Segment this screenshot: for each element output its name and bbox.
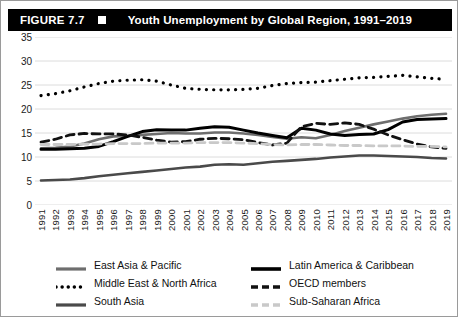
x-axis-tick-2018: 2018 <box>427 209 438 231</box>
y-axis-tick-30: 30 <box>21 56 32 67</box>
legend-swatch-icon-1 <box>251 260 281 270</box>
x-axis-tick-2009: 2009 <box>296 209 307 231</box>
y-axis-tick-10: 10 <box>21 152 32 163</box>
legend-item-5: Sub-Saharan Africa <box>251 293 380 309</box>
y-axis-tick-labels: 35302520151050 <box>8 37 32 205</box>
x-axis-tick-2000: 2000 <box>166 209 177 231</box>
y-axis-tick-5: 5 <box>26 176 32 187</box>
x-axis-tick-2012: 2012 <box>340 209 351 231</box>
chart-plot-area: 35302520151050 <box>8 37 452 212</box>
x-axis-tick-2007: 2007 <box>267 209 278 231</box>
chart-legend: East Asia & PacificMiddle East & North A… <box>8 257 452 311</box>
x-axis-tick-1994: 1994 <box>79 209 90 231</box>
x-axis-tick-2008: 2008 <box>282 209 293 231</box>
x-axis-tick-2015: 2015 <box>383 209 394 231</box>
legend-swatch-icon-2 <box>56 278 86 288</box>
x-axis-tick-1997: 1997 <box>123 209 134 231</box>
x-axis-tick-2002: 2002 <box>195 209 206 231</box>
y-axis-tick-20: 20 <box>21 104 32 115</box>
x-axis-tick-1993: 1993 <box>65 209 76 231</box>
legend-item-1: Latin America & Caribbean <box>251 257 414 273</box>
x-axis-tick-2006: 2006 <box>253 209 264 231</box>
y-axis-tick-15: 15 <box>21 128 32 139</box>
x-axis-tick-2017: 2017 <box>412 209 423 231</box>
white-square-icon <box>98 16 106 24</box>
legend-item-3: OECD members <box>251 275 366 291</box>
figure-title: Youth Unemployment by Global Region, 199… <box>128 14 412 26</box>
x-axis-tick-2013: 2013 <box>354 209 365 231</box>
chart-canvas <box>35 37 452 205</box>
legend-swatch-icon-5 <box>251 296 281 306</box>
series-line-4 <box>41 156 446 181</box>
figure-panel: FIGURE 7.7 Youth Unemployment by Global … <box>0 0 458 317</box>
legend-label-5: Sub-Saharan Africa <box>289 295 380 307</box>
legend-swatch-icon-3 <box>251 278 281 288</box>
legend-item-4: South Asia <box>56 293 144 309</box>
legend-label-1: Latin America & Caribbean <box>289 259 414 271</box>
x-axis-tick-2016: 2016 <box>398 209 409 231</box>
legend-label-3: OECD members <box>289 277 366 289</box>
legend-label-0: East Asia & Pacific <box>94 259 182 271</box>
y-axis-tick-0: 0 <box>26 200 32 211</box>
x-axis-tick-2014: 2014 <box>369 209 380 231</box>
x-axis-tick-1991: 1991 <box>36 209 47 231</box>
x-axis-tick-labels: 1991199219931994199519961997199819992000… <box>35 209 452 251</box>
legend-item-0: East Asia & Pacific <box>56 257 182 273</box>
y-axis-tick-25: 25 <box>21 80 32 91</box>
y-axis-tick-35: 35 <box>21 32 32 43</box>
legend-swatch-icon-0 <box>56 260 86 270</box>
chart-svg <box>35 37 452 205</box>
x-axis-tick-2003: 2003 <box>210 209 221 231</box>
legend-item-2: Middle East & North Africa <box>56 275 217 291</box>
figure-title-bar: FIGURE 7.7 Youth Unemployment by Global … <box>8 9 452 31</box>
x-axis-tick-2001: 2001 <box>181 209 192 231</box>
legend-label-4: South Asia <box>94 295 144 307</box>
x-axis-tick-2011: 2011 <box>325 209 336 230</box>
x-axis-tick-1996: 1996 <box>108 209 119 231</box>
legend-swatch-icon-4 <box>56 296 86 306</box>
legend-label-2: Middle East & North Africa <box>94 277 217 289</box>
figure-number: FIGURE 7.7 <box>20 14 85 26</box>
x-axis-tick-1999: 1999 <box>152 209 163 231</box>
x-axis-tick-1992: 1992 <box>50 209 61 231</box>
x-axis-tick-2004: 2004 <box>224 209 235 231</box>
x-axis-tick-2010: 2010 <box>311 209 322 231</box>
x-axis-tick-2019: 2019 <box>441 209 452 231</box>
x-axis-tick-2005: 2005 <box>239 209 250 231</box>
x-axis-tick-1998: 1998 <box>137 209 148 231</box>
x-axis-tick-1995: 1995 <box>94 209 105 231</box>
